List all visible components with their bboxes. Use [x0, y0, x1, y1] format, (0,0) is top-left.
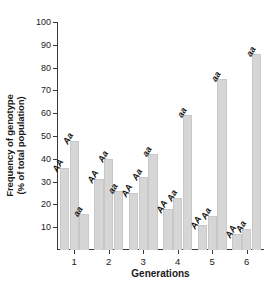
y-axis-line — [57, 22, 58, 250]
bar-label: AA — [52, 158, 66, 174]
plot-area: 102030405060708090100 AAAaaaAAAaaaAAAaaa… — [57, 22, 264, 250]
y-tick-label: 60 — [41, 109, 51, 118]
y-axis-title: Frequency of genotype (% of total popula… — [0, 0, 30, 291]
bar-label: aa — [245, 45, 258, 58]
bar-label: aa — [210, 70, 223, 83]
x-tick-label: 2 — [106, 257, 111, 267]
bar-gen3-AA: AA — [129, 193, 138, 250]
y-tick-label: 100 — [36, 18, 51, 27]
bar-gen3-Aa: Aa — [139, 177, 148, 250]
x-tick-mark — [143, 250, 144, 254]
x-tick-label: 1 — [72, 257, 77, 267]
bar-gen3-aa: aa — [148, 154, 157, 250]
y-tick-label: 70 — [41, 86, 51, 95]
bar-label: aa — [141, 145, 154, 158]
x-tick-mark — [212, 250, 213, 254]
y-tick-mark — [53, 113, 57, 114]
bar-gen1-Aa: Aa — [70, 141, 79, 250]
x-tick-label: 5 — [210, 257, 215, 267]
bar-gen6-AA: AA — [232, 234, 241, 250]
y-tick-mark — [53, 204, 57, 205]
y-tick-mark — [53, 182, 57, 183]
bar-label: aa — [176, 107, 189, 120]
bar-gen4-Aa: Aa — [173, 198, 182, 250]
x-tick-label: 4 — [175, 257, 180, 267]
y-tick-label: 20 — [41, 200, 51, 209]
y-tick-mark — [53, 90, 57, 91]
x-tick-label: 3 — [141, 257, 146, 267]
y-tick-label: 10 — [41, 223, 51, 232]
bar-label: Aa — [96, 149, 110, 163]
y-tick-label: 80 — [41, 63, 51, 72]
bar-gen6-aa: aa — [252, 54, 261, 250]
genotype-frequency-chart: Frequency of genotype (% of total popula… — [0, 0, 280, 291]
x-tick-label: 6 — [244, 257, 249, 267]
bar-gen5-Aa: Aa — [208, 216, 217, 250]
x-axis-title: Generations — [57, 268, 264, 279]
bar-gen1-aa: aa — [79, 214, 88, 250]
y-tick-mark — [53, 45, 57, 46]
y-axis-title-line-2: (% of total population) — [15, 94, 27, 196]
x-tick-mark — [178, 250, 179, 254]
y-axis-title-line-1: Frequency of genotype — [4, 94, 16, 196]
y-tick-mark — [53, 22, 57, 23]
x-tick-mark — [247, 250, 248, 254]
bar-gen4-aa: aa — [183, 115, 192, 250]
y-tick-label: 40 — [41, 154, 51, 163]
y-tick-mark — [53, 136, 57, 137]
bar-gen2-Aa: Aa — [104, 159, 113, 250]
y-tick-mark — [53, 68, 57, 69]
bar-label: Aa — [131, 168, 145, 182]
y-tick-label: 90 — [41, 40, 51, 49]
x-tick-mark — [74, 250, 75, 254]
y-tick-label: 50 — [41, 132, 51, 141]
bar-gen5-AA: AA — [198, 225, 207, 250]
x-tick-mark — [109, 250, 110, 254]
bar-label: AA — [86, 169, 100, 185]
bar-gen2-aa: aa — [114, 191, 123, 250]
bar-gen2-AA: AA — [94, 179, 103, 250]
bar-label: Aa — [165, 188, 179, 202]
bar-gen4-AA: AA — [163, 209, 172, 250]
bar-gen6-Aa: Aa — [242, 229, 251, 250]
bar-gen5-aa: aa — [217, 79, 226, 250]
bar-label: Aa — [62, 131, 76, 145]
y-tick-mark — [53, 227, 57, 228]
y-tick-label: 30 — [41, 177, 51, 186]
bar-gen1-AA: AA — [60, 168, 69, 250]
bar-label: Aa — [234, 220, 248, 234]
